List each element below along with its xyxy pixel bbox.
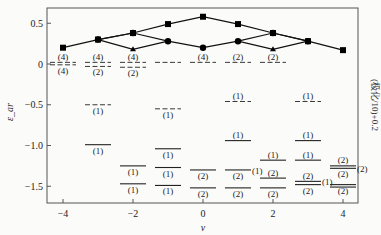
y-tick-label: −1.5 bbox=[25, 181, 43, 192]
degeneracy-label: (1) bbox=[303, 150, 314, 160]
square-marker bbox=[165, 21, 171, 27]
degeneracy-label: (1) bbox=[163, 169, 174, 179]
y-tick-label: 0 bbox=[38, 59, 43, 70]
degeneracy-label: (1) bbox=[128, 185, 139, 195]
degeneracy-label: (2) bbox=[338, 169, 349, 179]
degeneracy-label: (1) bbox=[163, 186, 174, 196]
degeneracy-label: (2) bbox=[233, 171, 244, 181]
degeneracy-label: (4) bbox=[58, 52, 69, 62]
square-marker bbox=[60, 45, 66, 51]
degeneracy-label: (1) bbox=[303, 130, 314, 140]
degeneracy-label: (4) bbox=[58, 66, 69, 76]
polarization-scale-note: (极化/10)+0.2 bbox=[370, 79, 381, 131]
degeneracy-label: (1) bbox=[233, 91, 244, 101]
degeneracy-label: (1) bbox=[303, 91, 314, 101]
x-tick-label: 0 bbox=[201, 208, 206, 219]
degeneracy-label: (2) bbox=[198, 189, 209, 199]
x-tick-label: −4 bbox=[58, 208, 69, 219]
degeneracy-label: (1) bbox=[93, 106, 104, 116]
circle-marker bbox=[270, 30, 276, 36]
circle-marker bbox=[305, 38, 311, 44]
energy-levels: (4)(4)(4)(2)(1)(1)(4)(2)(1)(1)(1)(1)(1)(… bbox=[50, 52, 368, 199]
y-tick-label: −1.0 bbox=[25, 140, 43, 151]
y-axis-title: ε_ar bbox=[4, 103, 15, 121]
x-tick-label: 4 bbox=[341, 208, 346, 219]
degeneracy-label: (2) bbox=[198, 171, 209, 181]
degeneracy-label: (2) bbox=[268, 168, 279, 178]
x-axis-title: ν bbox=[201, 222, 206, 233]
degeneracy-label: (1) bbox=[128, 167, 139, 177]
degeneracy-label: (1) bbox=[93, 146, 104, 156]
degeneracy-label: (2) bbox=[233, 189, 244, 199]
degeneracy-label: (4) bbox=[198, 52, 209, 62]
x-axis: −4−2024 bbox=[58, 199, 346, 219]
y-tick-label: 0.5 bbox=[31, 18, 44, 29]
energy-level-chart: 0.50−0.5−1.0−1.5 −4−2024 (4)(4)(4)(2)(1)… bbox=[0, 0, 381, 235]
circle-marker bbox=[130, 30, 136, 36]
y-tick-label: −0.5 bbox=[25, 99, 43, 110]
degeneracy-label: (1) bbox=[163, 150, 174, 160]
degeneracy-side-label: (1) bbox=[322, 177, 333, 187]
degeneracy-side-label: (2) bbox=[357, 164, 368, 174]
degeneracy-label: (2) bbox=[303, 171, 314, 181]
square-marker bbox=[200, 14, 206, 20]
degeneracy-label: (1) bbox=[233, 130, 244, 140]
degeneracy-label: (2) bbox=[128, 68, 139, 78]
square-marker bbox=[340, 47, 346, 53]
circle-marker bbox=[95, 36, 101, 42]
x-tick-label: 2 bbox=[271, 208, 276, 219]
degeneracy-label: (2) bbox=[268, 52, 279, 62]
degeneracy-label: (2) bbox=[268, 189, 279, 199]
degeneracy-label: (2) bbox=[338, 155, 349, 165]
circle-marker bbox=[165, 38, 171, 44]
circle-marker bbox=[200, 45, 206, 51]
x-tick-label: −2 bbox=[128, 208, 139, 219]
square-marker bbox=[235, 21, 241, 27]
degeneracy-label: (2) bbox=[93, 67, 104, 77]
circle-marker bbox=[235, 38, 241, 44]
degeneracy-label: (1) bbox=[268, 150, 279, 160]
polarization-markers bbox=[60, 14, 346, 53]
degeneracy-label: (2) bbox=[233, 52, 244, 62]
degeneracy-label: (1) bbox=[163, 110, 174, 120]
degeneracy-label: (4) bbox=[128, 52, 139, 62]
degeneracy-label: (4) bbox=[93, 52, 104, 62]
degeneracy-side-label: (1) bbox=[252, 166, 263, 176]
degeneracy-label: (2) bbox=[303, 186, 314, 196]
